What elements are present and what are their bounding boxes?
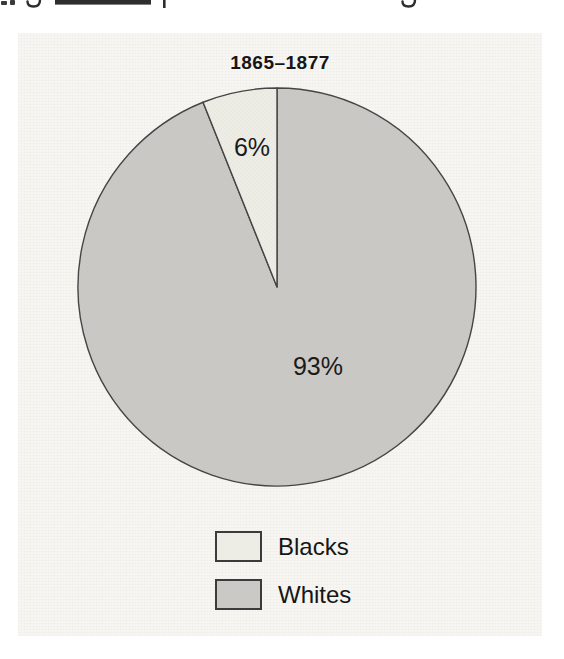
slice-label-blacks: 6% — [234, 133, 270, 161]
legend-row-blacks: Blacks — [215, 531, 351, 562]
page: 1865–1877 93%6% Blacks Whites — [0, 0, 564, 659]
legend-label-whites: Whites — [278, 581, 351, 609]
slice-label-whites: 93% — [293, 352, 343, 380]
legend-label-blacks: Blacks — [278, 533, 349, 561]
legend-swatch-blacks — [215, 531, 262, 562]
pie-scan-texture — [79, 89, 475, 485]
legend-swatch-whites — [215, 579, 262, 610]
legend-row-whites: Whites — [215, 579, 351, 610]
pie-slices: 93%6% — [78, 88, 476, 486]
legend: Blacks Whites — [215, 531, 351, 627]
